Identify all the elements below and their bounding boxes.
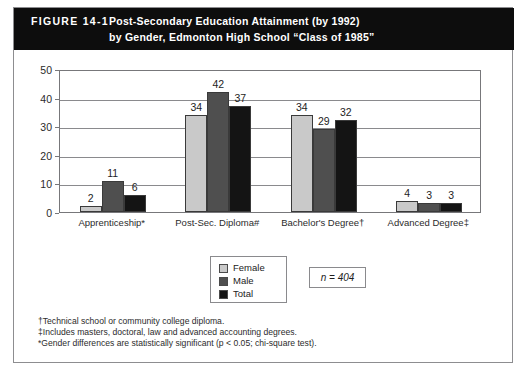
bar [418, 203, 440, 212]
bar [396, 201, 418, 212]
bar [229, 106, 251, 212]
plot-frame: 2116344237342932433 [59, 70, 481, 213]
footnote: †Technical school or community college d… [38, 316, 458, 327]
bar-value-label: 34 [285, 101, 319, 113]
y-axis-tick-label: 0 [12, 207, 52, 219]
bar-value-label: 6 [118, 181, 152, 193]
figure-title-bar: FIGURE 14-1 Post-Secondary Education Att… [14, 8, 514, 50]
legend-swatch [219, 264, 228, 273]
category-label: Post-Sec. Diploma# [165, 217, 271, 228]
figure-frame: FIGURE 14-1 Post-Secondary Education Att… [13, 7, 513, 363]
bar [80, 206, 102, 212]
y-axis-tick-label: 10 [12, 178, 52, 190]
figure-number-label: FIGURE 14-1 [31, 15, 109, 27]
legend-label: Male [233, 276, 254, 286]
footnote: *Gender differences are statistically si… [38, 338, 458, 349]
footnote: ‡Includes masters, doctoral, law and adv… [38, 327, 458, 338]
bar-value-label: 3 [434, 189, 468, 201]
bar [440, 203, 462, 212]
bar [124, 195, 146, 212]
bar-value-label: 11 [96, 167, 130, 179]
legend-item: Total [219, 288, 286, 300]
legend-label: Female [233, 263, 265, 273]
bar-group: 2116 [80, 69, 146, 212]
bar [335, 120, 357, 212]
bar-value-label: 32 [329, 106, 363, 118]
y-axis-tick-label: 30 [12, 121, 52, 133]
figure-title-line-2: by Gender, Edmonton High School “Class o… [109, 31, 375, 43]
y-axis-tick-mark [55, 213, 59, 214]
category-label: Apprenticeship* [59, 217, 165, 228]
sample-size-box: n = 404 [309, 267, 366, 288]
y-axis-tick-label: 20 [12, 150, 52, 162]
footnote-list: †Technical school or community college d… [38, 316, 458, 350]
bar-value-label: 42 [201, 78, 235, 90]
y-axis-tick-label: 40 [12, 93, 52, 105]
bar-value-label: 37 [223, 92, 257, 104]
bar [313, 129, 335, 212]
bar-group: 433 [396, 69, 462, 212]
bar-group: 344237 [185, 69, 251, 212]
y-axis-tick-label: 50 [12, 64, 52, 76]
bar [185, 115, 207, 212]
chart-plot-region: 01020304050 2116344237342932433 Apprenti… [14, 50, 514, 364]
figure-title-line-1: Post-Secondary Education Attainment (by … [109, 15, 360, 27]
category-label: Advanced Degree‡ [376, 217, 482, 228]
legend-swatch [219, 290, 228, 299]
bar [291, 115, 313, 212]
legend-item: Female [219, 262, 286, 274]
chart-legend: FemaleMaleTotal [210, 256, 287, 303]
legend-swatch [219, 277, 228, 286]
legend-label: Total [233, 289, 253, 299]
legend-item: Male [219, 275, 286, 287]
sample-size-text: n = 404 [321, 272, 355, 283]
bar-group: 342932 [291, 69, 357, 212]
category-label: Bachelor's Degree† [270, 217, 376, 228]
bar [207, 92, 229, 212]
